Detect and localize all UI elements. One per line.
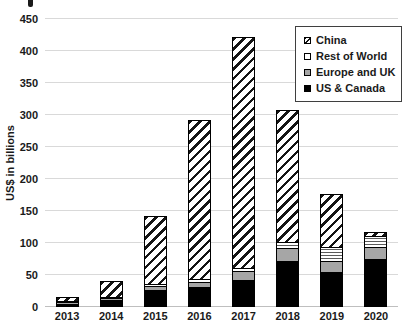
y-tick-150: 150 [0, 204, 38, 218]
segment-us-canada-2013 [57, 304, 78, 306]
legend-item-china: China [304, 32, 397, 48]
cropped-glyph-artifact [28, 0, 33, 7]
segment-china-2018 [277, 110, 298, 242]
legend-label-rest-of-world: Rest of World [316, 50, 387, 62]
y-tick-200: 200 [0, 172, 38, 186]
segment-us-canada-2018 [277, 261, 298, 306]
legend-label-us-canada: US & Canada [316, 82, 385, 94]
bar-2014 [100, 281, 123, 307]
x-label-2014: 2014 [89, 310, 133, 322]
x-label-2015: 2015 [133, 310, 177, 322]
segment-us-canada-2017 [233, 280, 254, 306]
y-axis-tick-labels: 050100150200250300350400450 [0, 19, 41, 307]
bar-2017 [232, 37, 255, 307]
x-label-2019: 2019 [310, 310, 354, 322]
segment-us-canada-2019 [321, 272, 342, 306]
bar-2015 [144, 216, 167, 307]
y-tick-450: 450 [0, 12, 38, 26]
legend-label-europe-and-uk: Europe and UK [316, 66, 395, 78]
segment-china-2014 [101, 281, 122, 297]
segment-rest-of-world-2020 [365, 236, 386, 248]
y-tick-400: 400 [0, 44, 38, 58]
legend-item-rest-of-world: Rest of World [304, 48, 397, 64]
bar-2020 [364, 232, 387, 307]
segment-us-canada-2015 [145, 290, 166, 306]
us-canada-swatch-icon [304, 85, 311, 92]
segment-china-2017 [233, 37, 254, 267]
china-hatch-swatch-icon [304, 37, 311, 44]
segment-us-canada-2014 [101, 300, 122, 306]
bar-2016 [188, 120, 211, 307]
x-label-2017: 2017 [222, 310, 266, 322]
segment-china-2016 [189, 120, 210, 279]
legend-box: China Rest of World Europe and UK US & C… [295, 26, 402, 102]
x-label-2020: 2020 [354, 310, 398, 322]
y-tick-0: 0 [0, 300, 38, 314]
segment-us-canada-2020 [365, 259, 386, 306]
segment-china-2019 [321, 194, 342, 247]
x-label-2013: 2013 [45, 310, 89, 322]
legend-item-us-canada: US & Canada [304, 80, 397, 96]
segment-europe-and-uk-2020 [365, 247, 386, 259]
bar-2019 [320, 194, 343, 307]
segment-rest-of-world-2019 [321, 247, 342, 260]
chart-canvas: US$ in billions 050100150200250300350400… [0, 0, 405, 336]
y-tick-100: 100 [0, 236, 38, 250]
legend-label-china: China [316, 34, 347, 46]
segment-europe-and-uk-2017 [233, 271, 254, 281]
segment-europe-and-uk-2018 [277, 248, 298, 261]
segment-china-2015 [145, 216, 166, 283]
x-label-2016: 2016 [177, 310, 221, 322]
legend-item-europe-and-uk: Europe and UK [304, 64, 397, 80]
y-tick-350: 350 [0, 76, 38, 90]
europe-and-uk-swatch-icon [304, 69, 311, 76]
x-axis-labels: 20132014201520162017201820192020 [45, 310, 398, 322]
x-label-2018: 2018 [266, 310, 310, 322]
bar-2018 [276, 110, 299, 307]
segment-europe-and-uk-2019 [321, 261, 342, 273]
rest-of-world-swatch-icon [304, 53, 311, 60]
bar-2013 [56, 297, 79, 307]
y-tick-300: 300 [0, 108, 38, 122]
y-tick-250: 250 [0, 140, 38, 154]
y-tick-50: 50 [0, 268, 38, 282]
segment-us-canada-2016 [189, 287, 210, 306]
